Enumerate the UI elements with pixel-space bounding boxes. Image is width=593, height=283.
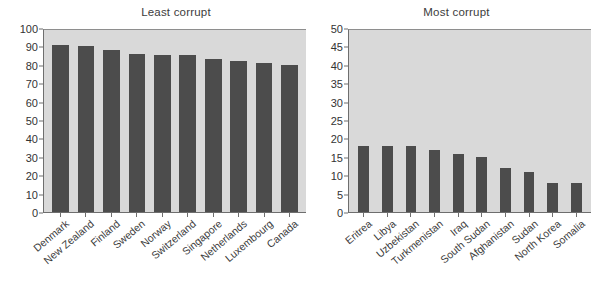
bar-slot <box>48 30 73 212</box>
y-axis-tick-label: 20 <box>26 171 38 182</box>
x-axis-tick-mark <box>576 213 577 217</box>
y-axis-tick-label: 0 <box>337 208 343 219</box>
x-axis-tick-mark <box>434 213 435 217</box>
x-axis-tick-mark <box>111 213 112 217</box>
x-axis-tick-mark <box>264 213 265 217</box>
x-axis-tick-mark <box>238 213 239 217</box>
x-axis-tick-mark <box>505 213 506 217</box>
x-axis-tick-mark <box>213 213 214 217</box>
bar-slot <box>226 30 251 212</box>
bar-slot <box>150 30 175 212</box>
bar <box>429 150 440 212</box>
y-axis-tick-label: 80 <box>26 60 38 71</box>
bar <box>78 46 95 212</box>
plot-area-least-corrupt <box>43 29 306 213</box>
y-axis-tick-label: 50 <box>26 116 38 127</box>
bar <box>453 154 464 212</box>
x-axis-tick-mark <box>136 213 137 217</box>
plot-area-most-corrupt <box>348 29 591 213</box>
chart-panel-most-corrupt: Most corrupt 05101520253035404550 Eritre… <box>312 0 593 283</box>
y-axis-tick-label: 10 <box>26 189 38 200</box>
bar <box>129 54 146 212</box>
chart-title-least-corrupt: Least corrupt <box>0 6 332 18</box>
bar-slot <box>517 30 541 212</box>
y-axis-tick-label: 40 <box>331 60 343 71</box>
bar <box>500 168 511 212</box>
x-axis-tick-mark <box>410 213 411 217</box>
y-axis-tick-label: 5 <box>337 189 343 200</box>
x-axis-tick-mark <box>162 213 163 217</box>
bar <box>179 55 196 212</box>
dual-bar-chart-figure: Least corrupt 0102030405060708090100 Den… <box>0 0 593 283</box>
y-axis-tick-label: 45 <box>331 42 343 53</box>
bar <box>476 157 487 212</box>
bar <box>406 146 417 212</box>
x-axis-tick-mark <box>289 213 290 217</box>
y-axis-least-corrupt: 0102030405060708090100 <box>0 29 43 213</box>
y-axis-tick-label: 50 <box>331 24 343 35</box>
bar-slot <box>251 30 276 212</box>
y-axis-tick-label: 30 <box>331 97 343 108</box>
y-axis-tick-label: 60 <box>26 97 38 108</box>
bar <box>281 65 298 212</box>
y-axis-tick-label: 90 <box>26 42 38 53</box>
bar <box>382 146 393 212</box>
bar <box>524 172 535 212</box>
bar-slot <box>399 30 423 212</box>
bar-slot <box>277 30 302 212</box>
bar-slot <box>541 30 565 212</box>
x-axis-tick-mark <box>387 213 388 217</box>
bar-series-least-corrupt <box>44 30 306 212</box>
y-axis-tick-label: 40 <box>26 134 38 145</box>
bar <box>256 63 273 212</box>
bar <box>358 146 369 212</box>
y-axis-tick-label: 10 <box>331 171 343 182</box>
bar-slot <box>73 30 98 212</box>
y-axis-tick-label: 0 <box>32 208 38 219</box>
x-axis-labels-most-corrupt: EritreaLibyaUzbekistanTurkmenistanIraqSo… <box>348 218 591 283</box>
y-axis-most-corrupt: 05101520253035404550 <box>312 29 348 213</box>
x-axis-labels-least-corrupt: DenmarkNew ZealandFinlandSwedenNorwaySwi… <box>43 218 306 283</box>
bar <box>205 59 222 212</box>
y-axis-tick-label: 35 <box>331 79 343 90</box>
bar <box>52 45 69 212</box>
bar-series-most-corrupt <box>349 30 591 212</box>
bar-slot <box>376 30 400 212</box>
y-axis-tick-label: 30 <box>26 152 38 163</box>
y-axis-tick-label: 25 <box>331 116 343 127</box>
bar-slot <box>446 30 470 212</box>
chart-title-most-corrupt: Most corrupt <box>312 6 593 18</box>
x-axis-tick-mark <box>458 213 459 217</box>
y-axis-tick-label: 70 <box>26 79 38 90</box>
y-axis-tick-label: 100 <box>20 24 38 35</box>
bar <box>103 50 120 212</box>
y-axis-tick-label: 15 <box>331 152 343 163</box>
bar <box>230 61 247 212</box>
bar <box>547 183 558 212</box>
bar <box>571 183 582 212</box>
bar-slot <box>99 30 124 212</box>
bar-slot <box>175 30 200 212</box>
y-axis-tick-label: 20 <box>331 134 343 145</box>
x-axis-tick-mark <box>363 213 364 217</box>
bar-slot <box>470 30 494 212</box>
bar-slot <box>494 30 518 212</box>
bar-slot <box>564 30 588 212</box>
bar-slot <box>200 30 225 212</box>
x-axis-category-label: Eritrea <box>343 218 373 246</box>
x-axis-tick-mark <box>552 213 553 217</box>
bar-slot <box>423 30 447 212</box>
x-axis-tick-mark <box>187 213 188 217</box>
bar-slot <box>124 30 149 212</box>
chart-panel-least-corrupt: Least corrupt 0102030405060708090100 Den… <box>0 0 312 283</box>
x-axis-tick-mark <box>85 213 86 217</box>
bar-slot <box>352 30 376 212</box>
x-axis-tick-mark <box>60 213 61 217</box>
x-axis-tick-mark <box>481 213 482 217</box>
bar <box>154 55 171 212</box>
x-axis-tick-mark <box>529 213 530 217</box>
